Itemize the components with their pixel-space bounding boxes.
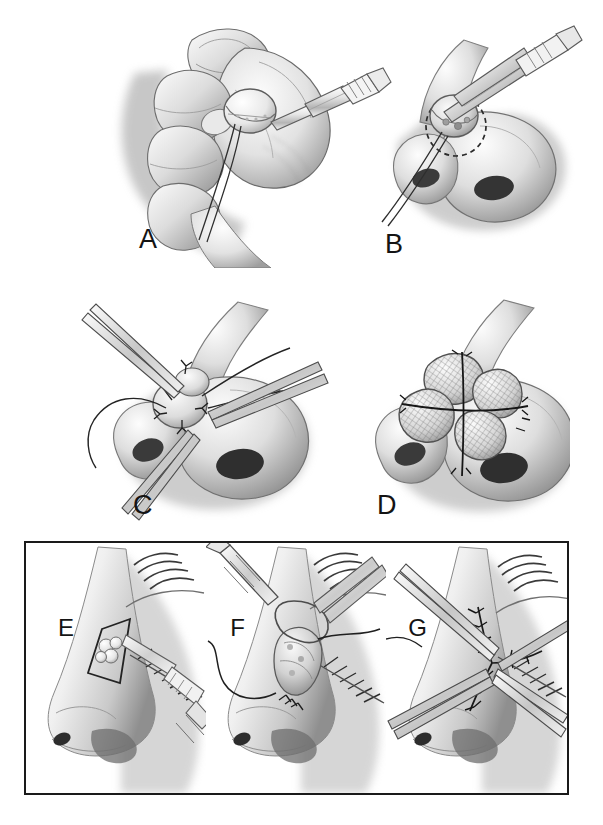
panel-label-f: F — [230, 616, 245, 640]
panel-f-artwork — [206, 543, 386, 793]
panel-a: A — [95, 18, 395, 268]
panel-label-b: B — [385, 231, 404, 258]
panel-d: D — [340, 296, 570, 526]
panel-f: F — [206, 543, 386, 793]
panel-b: B — [368, 22, 593, 252]
panel-e: E — [26, 543, 206, 793]
panel-label-a: A — [139, 226, 158, 253]
panel-label-c: C — [133, 492, 153, 519]
panel-label-g: G — [408, 616, 427, 640]
figure-root: A — [0, 0, 603, 825]
panel-c-artwork — [62, 296, 342, 526]
panel-label-e: E — [58, 616, 75, 640]
panel-d-artwork — [340, 296, 570, 526]
bottom-panel-frame: E — [24, 541, 569, 795]
panel-e-artwork — [26, 543, 206, 793]
panel-g: G — [386, 543, 567, 793]
panel-c: C — [62, 296, 342, 526]
needle-holder-upper-left — [82, 304, 184, 398]
panel-b-artwork — [368, 22, 593, 252]
wrist — [191, 206, 271, 268]
cartilage-graft — [224, 89, 276, 133]
panel-g-artwork — [386, 543, 567, 793]
panel-label-d: D — [377, 492, 397, 519]
